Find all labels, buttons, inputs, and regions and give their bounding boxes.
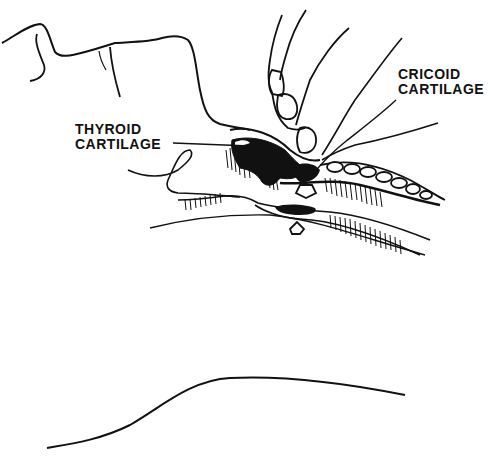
cricoid-pressure-diagram: THYROID CARTILAGE CRICOID CARTILAGE [0, 0, 494, 469]
cricoid-cartilage-shape [294, 163, 320, 182]
lower-contour [47, 378, 405, 448]
fingernail-1 [269, 70, 284, 96]
spine-line [150, 215, 425, 255]
thumb-line-2 [322, 123, 438, 160]
lip-line [99, 51, 106, 70]
fingernail-3 [297, 127, 316, 153]
cricoid-leader-line [318, 100, 396, 168]
cricoid-label-line1: CRICOID [398, 67, 484, 82]
finger-middle [296, 28, 349, 125]
pressure-arrow-down-icon [296, 185, 316, 198]
nostril-line [30, 34, 44, 81]
cricoid-cartilage-label: CRICOID CARTILAGE [398, 67, 484, 97]
esophagus-lumen [275, 204, 316, 215]
thyroid-label-line1: THYROID [75, 122, 161, 137]
mouth-line [110, 47, 120, 97]
thyroid-cartilage-label: THYROID CARTILAGE [75, 122, 161, 152]
tongue-fold [128, 150, 240, 197]
thyroid-label-line2: CARTILAGE [75, 137, 161, 152]
fingernail-2 [277, 94, 297, 119]
counter-arrow-up-icon [290, 222, 304, 234]
cricoid-label-line2: CARTILAGE [398, 82, 484, 97]
esophagus-hatching [185, 193, 221, 210]
finger-index-outer [269, 15, 282, 92]
lower-hatching [330, 215, 401, 254]
finger-index-inner [280, 10, 306, 80]
